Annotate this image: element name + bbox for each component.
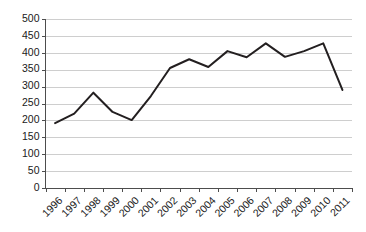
y-tick-label: 0 bbox=[34, 181, 40, 193]
y-tick-label: 250 bbox=[22, 96, 40, 108]
y-tick-label: 300 bbox=[22, 79, 40, 91]
y-tick-label: 450 bbox=[22, 29, 40, 41]
y-tick-label: 200 bbox=[22, 113, 40, 125]
y-tick-label: 50 bbox=[28, 164, 40, 176]
chart-canvas: 050100150200250300350400450500 199619971… bbox=[0, 0, 366, 232]
y-tick-label: 400 bbox=[22, 46, 40, 58]
y-tick-label: 350 bbox=[22, 62, 40, 74]
y-tick-label: 100 bbox=[22, 147, 40, 159]
line-chart: 050100150200250300350400450500 199619971… bbox=[0, 0, 366, 232]
y-tick-label: 500 bbox=[22, 12, 40, 24]
y-tick-label: 150 bbox=[22, 130, 40, 142]
